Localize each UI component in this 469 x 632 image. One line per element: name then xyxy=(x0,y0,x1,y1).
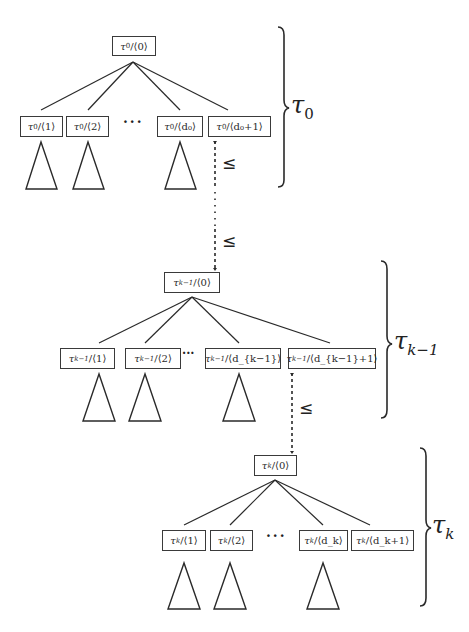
tauk-1-child-node-1: τk−1/⟨1⟩ xyxy=(60,348,115,369)
tauk-child-node-2: τk/⟨2⟩ xyxy=(210,530,253,551)
group-label-sub: k−1 xyxy=(407,341,438,359)
node-argument: /⟨d_{k−1}⟩ xyxy=(225,353,281,364)
tau-subscript: k−1 xyxy=(210,355,225,363)
connector-tau0-to-tauk-1 xyxy=(213,141,217,271)
group-label-base: τ xyxy=(394,327,407,355)
le-symbol-1: ≤ xyxy=(222,153,236,173)
tau0-edges xyxy=(41,62,228,110)
tau0-child-node-1: τ0/⟨1⟩ xyxy=(20,116,63,137)
tauk-child-node-1: τk/⟨1⟩ xyxy=(162,530,206,551)
tauk-1-child-node-dk-1-plus-1: τk−1/⟨d_{k−1}+1⟩ xyxy=(288,348,376,369)
tau-subscript: k−1 xyxy=(140,355,155,363)
node-argument: /⟨1⟩ xyxy=(180,535,198,546)
group-label-sub: 0 xyxy=(304,105,314,123)
tau0-root-node: τ0/⟨0⟩ xyxy=(112,36,156,56)
tauk-1-child-node-2: τk−1/⟨2⟩ xyxy=(125,348,181,369)
node-argument: /⟨0⟩ xyxy=(130,41,148,52)
le-symbol-3: ≤ xyxy=(299,398,313,418)
group-label-sub: k xyxy=(445,525,454,543)
tauk-1-root-node: τk−1/⟨0⟩ xyxy=(164,272,220,293)
group-label-base: τ xyxy=(291,91,304,119)
connector-tauk-1-to-tauk xyxy=(290,373,294,454)
node-argument: /⟨d_{k−1}+1⟩ xyxy=(307,353,378,364)
group-label-base: τ xyxy=(432,511,445,539)
tauk-1-edges xyxy=(99,297,330,343)
node-argument: /⟨1⟩ xyxy=(38,121,56,132)
tauk-ellipsis: ··· xyxy=(266,528,287,544)
tau0-ellipsis: ··· xyxy=(123,114,144,130)
node-argument: /⟨2⟩ xyxy=(228,535,246,546)
node-argument: /⟨d_k+1⟩ xyxy=(366,535,409,546)
node-argument: /⟨2⟩ xyxy=(154,353,172,364)
group-label-tauk: τk xyxy=(432,511,454,543)
node-argument: /⟨0⟩ xyxy=(272,460,290,471)
node-argument: /⟨1⟩ xyxy=(89,353,107,364)
node-argument: /⟨d_k⟩ xyxy=(314,535,343,546)
tau-subscript: k−1 xyxy=(74,355,89,363)
brace-tauk-1 xyxy=(381,261,392,418)
tau0-subtree-triangles xyxy=(26,142,196,189)
node-argument: /⟨d₀+1⟩ xyxy=(226,121,262,132)
tauk-edges xyxy=(184,480,370,525)
tauk-1-ellipsis: ··· xyxy=(182,346,195,360)
tau-subscript: k−1 xyxy=(292,355,307,363)
node-argument: /⟨d₀⟩ xyxy=(174,121,196,132)
tau0-child-node-d0: τ0/⟨d₀⟩ xyxy=(157,116,203,137)
tauk-child-node-dk: τk/⟨d_k⟩ xyxy=(299,530,348,551)
tree-chain-diagram: τ0/⟨0⟩ τ0/⟨1⟩ τ0/⟨2⟩ ··· τ0/⟨d₀⟩ τ0/⟨d₀+… xyxy=(0,0,469,632)
tau0-child-node-2: τ0/⟨2⟩ xyxy=(66,116,109,137)
brace-tauk xyxy=(420,448,431,606)
node-argument: /⟨0⟩ xyxy=(193,277,211,288)
tau0-child-node-d0-plus-1: τ0/⟨d₀+1⟩ xyxy=(208,116,271,137)
tauk-subtree-triangles xyxy=(168,563,339,609)
group-label-tauk-1: τk−1 xyxy=(394,327,438,359)
tauk-child-node-dk-plus-1: τk/⟨d_k+1⟩ xyxy=(351,530,414,551)
group-label-tau0: τ0 xyxy=(291,91,314,123)
tauk-1-child-node-dk-1: τk−1/⟨d_{k−1}⟩ xyxy=(205,348,281,369)
le-symbol-2: ≤ xyxy=(222,231,236,251)
brace-tau0 xyxy=(278,27,289,187)
tau-subscript: k−1 xyxy=(179,279,194,287)
node-argument: /⟨2⟩ xyxy=(84,121,102,132)
tauk-root-node: τk/⟨0⟩ xyxy=(254,455,297,476)
tauk-1-subtree-triangles xyxy=(83,374,255,421)
